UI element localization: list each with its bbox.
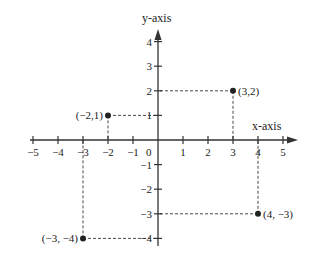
y-tick-label: −4 bbox=[140, 232, 152, 244]
data-point bbox=[230, 88, 236, 94]
y-axis-arrow-icon bbox=[155, 29, 162, 40]
y-tick-label: 4 bbox=[147, 36, 153, 48]
y-tick-label: −2 bbox=[140, 183, 152, 195]
y-tick-label: 3 bbox=[147, 60, 153, 72]
data-point bbox=[105, 112, 111, 118]
y-axis-label: y-axis bbox=[142, 11, 172, 25]
x-tick-label: 2 bbox=[205, 146, 211, 158]
point-label: (−3, −4) bbox=[42, 232, 79, 245]
x-tick-label: 1 bbox=[180, 146, 186, 158]
x-tick-label: 4 bbox=[255, 146, 261, 158]
point-label: (−2,1) bbox=[76, 109, 104, 122]
data-points: (3,2)(−2,1)(4, −3)(−3, −4) bbox=[42, 85, 294, 246]
x-axis-label: x-axis bbox=[252, 119, 282, 133]
point-label: (3,2) bbox=[238, 85, 259, 98]
x-tick-label: −1 bbox=[127, 146, 139, 158]
x-axis-arrow-icon bbox=[287, 137, 298, 144]
origin-label: 0 bbox=[146, 146, 152, 158]
data-point bbox=[255, 211, 261, 217]
data-point bbox=[80, 235, 86, 241]
x-tick-label: −5 bbox=[27, 146, 39, 158]
coordinate-plane: −5−4−3−2−112345−4−3−2−11234 x-axis y-axi… bbox=[0, 0, 316, 261]
y-tick-label: −1 bbox=[140, 159, 152, 171]
x-tick-label: 3 bbox=[230, 146, 236, 158]
y-tick-label: −3 bbox=[140, 208, 152, 220]
x-tick-label: −4 bbox=[52, 146, 64, 158]
x-tick-label: −3 bbox=[77, 146, 89, 158]
y-tick-label: 1 bbox=[147, 109, 153, 121]
x-tick-label: −2 bbox=[102, 146, 114, 158]
point-label: (4, −3) bbox=[263, 208, 293, 221]
x-tick-label: 5 bbox=[280, 146, 286, 158]
y-tick-label: 2 bbox=[147, 85, 153, 97]
